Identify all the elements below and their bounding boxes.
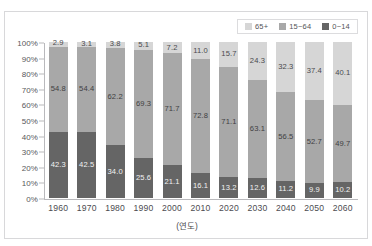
bar-column[interactable]: 11.256.532.3 <box>276 42 295 198</box>
y-axis-tick-label: 0% <box>26 195 38 204</box>
legend-item-15-64[interactable]: 15~64 <box>279 22 311 31</box>
bar-segment[interactable]: 21.1 <box>163 165 182 198</box>
x-axis-tick-label: 2050 <box>304 203 324 213</box>
bar-value-label: 52.7 <box>307 138 322 146</box>
y-axis-tick-mark <box>39 199 44 200</box>
bar-segment[interactable]: 37.4 <box>305 42 324 100</box>
x-axis-tick-label: 2010 <box>191 203 211 213</box>
y-axis-tick-mark <box>39 167 44 168</box>
bar-column[interactable]: 12.663.124.3 <box>248 42 267 198</box>
bar-value-label: 49.7 <box>335 140 350 148</box>
y-axis-tick-label: 10% <box>22 179 38 188</box>
bar-value-label: 32.3 <box>278 63 293 71</box>
bar-column[interactable]: 10.249.740.1 <box>333 42 352 198</box>
bar-value-label: 62.2 <box>108 93 123 101</box>
bar-segment[interactable]: 15.7 <box>219 42 238 66</box>
bar-segment[interactable]: 72.8 <box>191 59 210 173</box>
bar-column[interactable]: 42.554.43.1 <box>77 42 96 198</box>
bar-value-label: 2.9 <box>53 39 64 47</box>
bar-column[interactable]: 9.952.737.4 <box>305 42 324 198</box>
bar-segment[interactable]: 11.2 <box>276 181 295 198</box>
y-axis-tick-mark <box>39 136 44 137</box>
legend-item-0-14[interactable]: 0~14 <box>322 22 350 31</box>
bar-segment[interactable]: 71.7 <box>163 53 182 165</box>
bar-value-label: 25.6 <box>136 174 151 182</box>
bar-segment[interactable]: 42.3 <box>49 132 68 198</box>
bar-column[interactable]: 34.062.23.8 <box>106 42 125 198</box>
bar-value-label: 7.2 <box>167 44 178 52</box>
bar-segment[interactable]: 34.0 <box>106 145 125 198</box>
bar-segment[interactable]: 32.3 <box>276 42 295 92</box>
bar-segment[interactable]: 56.5 <box>276 92 295 180</box>
bar-value-label: 3.8 <box>110 40 121 48</box>
bar-segment[interactable]: 11.0 <box>191 42 210 59</box>
bar-segment[interactable]: 49.7 <box>333 105 352 183</box>
x-axis-tick-label: 2020 <box>219 203 239 213</box>
bar-segment[interactable]: 3.1 <box>77 42 96 47</box>
y-axis-tick-mark <box>39 43 44 44</box>
bar-segment[interactable]: 69.3 <box>134 50 153 158</box>
x-axis-tick-label: 2060 <box>333 203 353 213</box>
bar-value-label: 54.4 <box>79 85 94 93</box>
bar-segment[interactable]: 54.4 <box>77 47 96 132</box>
bar-segment[interactable]: 13.2 <box>219 177 238 198</box>
bar-segment[interactable]: 63.1 <box>248 80 267 178</box>
x-axis-line <box>44 199 358 200</box>
chart-figure: 65+15~640~14 0%10%20%30%40%50%60%70%80%9… <box>4 11 368 239</box>
bar-segment[interactable]: 3.8 <box>106 42 125 48</box>
bar-segment[interactable]: 62.2 <box>106 48 125 145</box>
bar-value-label: 11.0 <box>193 47 208 55</box>
bar-column[interactable]: 16.172.811.0 <box>191 42 210 198</box>
bar-value-label: 12.6 <box>250 184 265 192</box>
x-axis-tick-label: 1970 <box>77 203 97 213</box>
bar-segment[interactable]: 54.8 <box>49 47 68 132</box>
bar-value-label: 42.3 <box>51 161 66 169</box>
bar-segment[interactable]: 25.6 <box>134 158 153 198</box>
bar-segment[interactable]: 10.2 <box>333 182 352 198</box>
y-axis-tick-label: 50% <box>22 117 38 126</box>
bar-segment[interactable]: 7.2 <box>163 42 182 53</box>
y-axis-tick-label: 90% <box>22 54 38 63</box>
bar-segment[interactable]: 5.1 <box>134 42 153 50</box>
bar-value-label: 34.0 <box>108 168 123 176</box>
y-axis-tick-label: 30% <box>22 148 38 157</box>
y-axis-tick-mark <box>39 105 44 106</box>
x-axis-tick-label: 1960 <box>48 203 68 213</box>
legend-label: 15~64 <box>289 22 311 31</box>
bar-segment[interactable]: 42.5 <box>77 132 96 198</box>
y-axis-tick-mark <box>39 121 44 122</box>
bar-value-label: 24.3 <box>250 57 265 65</box>
bar-column[interactable]: 42.354.82.9 <box>49 42 68 198</box>
bar-column[interactable]: 25.669.35.1 <box>134 42 153 198</box>
bar-value-label: 40.1 <box>335 69 350 77</box>
legend-label: 65+ <box>255 22 268 31</box>
y-axis-tick-mark <box>39 89 44 90</box>
legend-swatch-icon <box>245 23 252 30</box>
bar-value-label: 11.2 <box>279 185 294 193</box>
y-axis-tick-mark <box>39 58 44 59</box>
legend-swatch-icon <box>279 23 286 30</box>
bar-segment[interactable]: 40.1 <box>333 42 352 105</box>
bar-column[interactable]: 13.271.115.7 <box>219 42 238 198</box>
bar-segment[interactable]: 2.9 <box>49 42 68 47</box>
legend-item-65[interactable]: 65+ <box>245 22 268 31</box>
y-axis-tick-label: 80% <box>22 70 38 79</box>
legend-label: 0~14 <box>332 22 350 31</box>
y-axis-tick-mark <box>39 152 44 153</box>
x-axis-title: (연도) <box>5 219 369 231</box>
y-axis-tick-label: 60% <box>22 101 38 110</box>
x-axis-tick-label: 2040 <box>276 203 296 213</box>
bar-value-label: 5.1 <box>138 41 149 49</box>
bar-value-label: 71.7 <box>164 105 179 113</box>
bar-segment[interactable]: 16.1 <box>191 173 210 198</box>
bar-segment[interactable]: 52.7 <box>305 100 324 182</box>
bar-column[interactable]: 21.171.77.2 <box>163 42 182 198</box>
bar-segment[interactable]: 12.6 <box>248 178 267 198</box>
bar-segment[interactable]: 71.1 <box>219 67 238 178</box>
bar-segment[interactable]: 9.9 <box>305 183 324 198</box>
y-axis-tick-mark <box>39 183 44 184</box>
x-axis-tick-label: 1980 <box>105 203 125 213</box>
bar-value-label: 71.1 <box>221 118 236 126</box>
bar-segment[interactable]: 24.3 <box>248 42 267 80</box>
bar-value-label: 42.5 <box>79 161 94 169</box>
